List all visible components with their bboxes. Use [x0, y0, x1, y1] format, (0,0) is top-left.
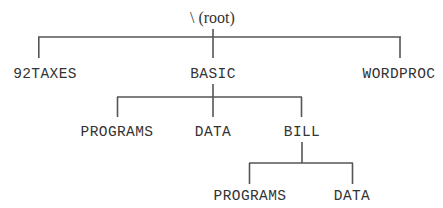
node-basic: BASIC: [190, 66, 236, 82]
node-bill: BILL: [284, 124, 320, 140]
root-connectors: [38, 29, 401, 58]
node-wordproc: WORDPROC: [363, 66, 436, 82]
node-basic-data: DATA: [195, 124, 231, 140]
node-basic-programs: PROGRAMS: [81, 124, 154, 140]
bill-connectors: [249, 142, 353, 184]
root-node: \ (root): [190, 9, 235, 27]
node-bill-programs: PROGRAMS: [214, 188, 287, 204]
node-92taxes: 92TAXES: [13, 66, 77, 82]
basic-connectors: [117, 84, 302, 117]
directory-tree-diagram: \ (root) 92TAXES BASIC WORDPROC PROGRAMS…: [0, 0, 443, 208]
node-bill-data: DATA: [334, 188, 370, 204]
